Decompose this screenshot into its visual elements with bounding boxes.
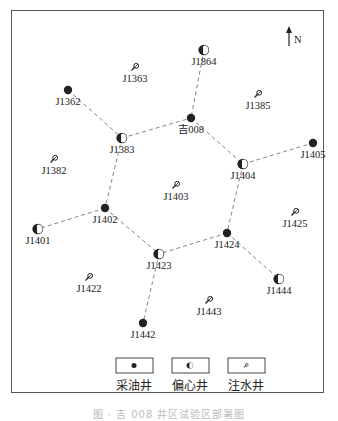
injector-well-icon [132,63,139,70]
well-J1425: J1425 [282,208,307,229]
well-label: J1424 [214,239,240,250]
eccentric-well-icon [153,249,163,258]
well-J1362: J1362 [55,86,80,107]
producer-well-icon [187,114,195,122]
north-label: N [294,34,302,45]
well-label: J1383 [109,144,134,155]
well-J1443: J1443 [196,296,221,317]
well-label: J1422 [76,283,101,294]
producer-well-icon [64,86,72,94]
well-J1864: J1864 [191,45,217,67]
well-label: J1363 [122,73,147,84]
well-J1383: J1383 [109,133,134,155]
well-J1405: J1405 [300,139,325,160]
well-label: J1404 [230,170,256,181]
well-label: J1402 [92,214,117,225]
well-J1403: J1403 [163,181,188,202]
eccentric-well-icon [237,159,247,168]
well-J1444: J1444 [266,274,292,296]
producer-well-icon [131,363,136,368]
well-J1402: J1402 [92,204,117,225]
injector-well-icon [292,208,299,215]
well-J1382: J1382 [41,155,66,176]
well-J1404: J1404 [230,159,256,181]
injector-well-icon [255,90,262,97]
well-J1423: J1423 [146,249,171,271]
well-label: J1385 [245,100,270,111]
well-吉008: 吉008 [178,114,204,135]
legend-item-eccentric: 偏心井 [172,358,209,393]
legend-label: 采油井 [116,379,152,393]
well-J1442: J1442 [130,319,155,340]
well-J1422: J1422 [76,273,101,294]
injector-well-icon [173,181,180,188]
well-label: J1403 [163,191,188,202]
well-label: 吉008 [178,124,204,135]
legend-item-injector: 注水井 [228,358,265,393]
well-label: J1425 [282,218,307,229]
well-label: J1864 [191,56,217,67]
figure-caption: 图 · 吉 008 井区试验区部署图 [0,406,338,421]
legend-label: 注水井 [228,378,264,393]
producer-well-icon [139,319,147,327]
injector-well-icon [206,296,213,303]
well-J1363: J1363 [122,63,147,84]
well-label: J1405 [300,149,325,160]
producer-well-icon [309,139,317,147]
north-arrow: N [286,26,302,46]
injector-well-icon [86,273,93,280]
well-J1401: J1401 [25,224,50,246]
producer-well-icon [101,204,109,212]
well-J1385: J1385 [245,90,270,111]
well-label: J1442 [130,329,155,340]
injector-well-icon [51,155,58,162]
well-label: J1423 [146,260,171,271]
eccentric-well-icon [198,45,208,54]
producer-well-icon [223,229,231,237]
legend-item-producer: 采油井 [116,358,153,393]
legend: 采油井偏心井注水井 [116,358,265,393]
well-label: J1362 [55,96,80,107]
well-J1424: J1424 [214,229,240,250]
wells-layer: J1363J1864J1362J1385吉008J1383J1405J1382J… [25,45,325,340]
well-label: J1443 [196,306,221,317]
eccentric-well-icon [32,224,42,233]
legend-label: 偏心井 [172,378,208,393]
well-label: J1401 [25,235,50,246]
eccentric-well-icon [116,133,126,142]
eccentric-well-icon [273,274,283,283]
eccentric-well-icon [187,363,193,369]
well-label: J1382 [41,165,66,176]
well-label: J1444 [266,285,292,296]
